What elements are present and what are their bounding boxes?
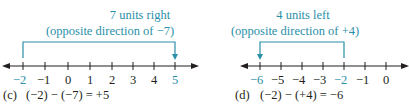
tick-label: −5 (271, 73, 284, 88)
tick-label: 4 (151, 73, 157, 88)
tick-label: −3 (313, 73, 326, 88)
tick-label: 5 (172, 73, 178, 88)
panel-label: (d) (235, 88, 250, 103)
left-arrow-icon (2, 63, 10, 69)
movement-bracket (23, 42, 175, 58)
tick-label: −2 (13, 73, 26, 88)
tick-label: −6 (250, 73, 263, 88)
tick-label: 0 (65, 73, 71, 88)
left-arrow-icon (240, 63, 248, 69)
tick-label: −1 (37, 73, 50, 88)
arrow-head-icon (172, 54, 178, 60)
right-arrow-icon (401, 63, 409, 69)
right-arrow-icon (191, 63, 199, 69)
tick-label: 0 (383, 73, 389, 88)
equation: (−2) − (+4) = −6 (260, 88, 343, 103)
movement-bracket (260, 42, 344, 58)
panel-c-number-line: 7 units right (opposite direction of −7)… (0, 0, 205, 108)
tick-label: −2 (334, 73, 347, 88)
tick-label: 3 (130, 73, 136, 88)
tick-label: −1 (356, 73, 369, 88)
equation: (−2) − (−7) = +5 (26, 88, 109, 103)
tick-label: −4 (292, 73, 305, 88)
tick-label: 2 (109, 73, 115, 88)
panel-label: (c) (3, 88, 17, 103)
panel-d-number-line: 4 units left (opposite direction of +4) … (205, 0, 409, 108)
tick-label: 1 (87, 73, 93, 88)
arrow-head-icon (257, 54, 263, 60)
